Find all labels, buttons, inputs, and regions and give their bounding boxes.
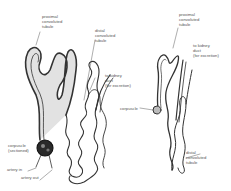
label-artery-in: artery in <box>7 167 22 172</box>
label-right-corpuscle: corpuscle <box>120 106 138 111</box>
left-nephron <box>26 32 113 184</box>
label-right-duct: to kidney duct (for excretion) <box>193 43 219 58</box>
label-left-distal: distal convoluted tubule <box>95 28 115 43</box>
label-left-proximal: proximal convoluted tubule <box>42 14 62 29</box>
right-kidney-duct <box>176 60 183 120</box>
label-artery-out: artery out <box>21 175 39 180</box>
label-right-distal: distal convoluted tubule <box>186 150 206 165</box>
label-right-proximal: proximal convoluted tubule <box>179 12 199 27</box>
label-left-duct: to kidney duct (for excretion) <box>105 73 131 88</box>
label-left-corpuscle: corpuscle (sectioned) <box>8 143 29 153</box>
right-corpuscle <box>153 106 161 114</box>
artery-out-vessel <box>49 155 52 168</box>
right-distal-tubule <box>172 97 186 174</box>
left-proximal-tubule <box>26 47 77 140</box>
left-corpuscle <box>37 140 53 156</box>
artery-in-vessel <box>36 155 41 167</box>
